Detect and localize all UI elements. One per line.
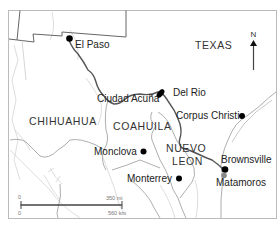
scale-end-top: 350 mi bbox=[106, 195, 123, 201]
scale-end-bottom: 560 km bbox=[108, 210, 126, 216]
region-label-chihuahua: CHIHUAHUA bbox=[29, 115, 97, 127]
map: N TEXAS CHIHUAHUA COAHUILA NUEVO LEON El… bbox=[0, 0, 280, 231]
city-dot-corpus-christi bbox=[239, 113, 245, 119]
city-label-monterrey: Monterrey bbox=[127, 173, 172, 184]
city-dot-monclova bbox=[141, 149, 147, 155]
scale-start-bottom: 0 bbox=[18, 210, 21, 216]
city-label-monclova: Monclova bbox=[94, 146, 137, 157]
region-label-texas: TEXAS bbox=[195, 39, 232, 51]
city-label-corpus-christi: Corpus Christi bbox=[176, 110, 239, 121]
scale-start-top: 0 bbox=[18, 194, 21, 200]
city-dot-brownsville bbox=[222, 166, 229, 173]
city-label-el-paso: El Paso bbox=[75, 39, 110, 50]
city-label-matamoros: Matamoros bbox=[216, 177, 266, 188]
city-label-brownsville: Brownsville bbox=[221, 154, 272, 165]
city-label-ciudad-acuna: Ciudad Acuña bbox=[97, 93, 160, 104]
region-label-nuevo-leon-1: NUEVO bbox=[166, 142, 206, 154]
region-label-nuevo-leon-2: LEON bbox=[172, 155, 203, 167]
city-dot-el-paso bbox=[66, 35, 73, 42]
region-label-coahuila: COAHUILA bbox=[113, 120, 171, 132]
north-label: N bbox=[251, 30, 257, 39]
city-label-del-rio: Del Rio bbox=[173, 87, 206, 98]
city-dot-monterrey bbox=[176, 176, 182, 182]
